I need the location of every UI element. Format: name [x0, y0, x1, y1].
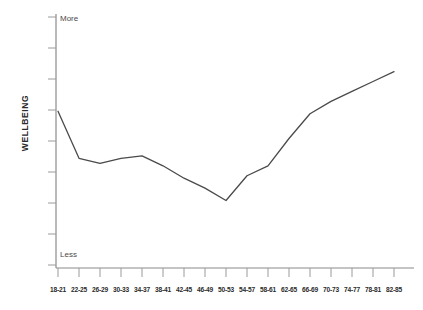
y-axis-ticks [48, 17, 56, 265]
x-axis-ticks [58, 268, 394, 277]
x-tick-label: 38-41 [155, 286, 171, 293]
wellbeing-line-series [58, 72, 394, 201]
x-tick-label: 54-57 [239, 286, 255, 293]
x-tick-label: 26-29 [92, 286, 108, 293]
x-tick-label: 18-21 [50, 286, 66, 293]
x-tick-label: 58-61 [260, 286, 276, 293]
y-axis-group [48, 14, 56, 268]
x-tick-label: 46-49 [197, 286, 213, 293]
x-tick-label: 42-45 [176, 286, 192, 293]
wellbeing-by-age-chart: WELLBEING More Less 18-2122-2526-2930-33… [0, 0, 423, 310]
y-axis-low-label: Less [60, 250, 77, 259]
x-tick-label: 82-85 [386, 286, 402, 293]
x-axis-tick-labels: 18-2122-2526-2930-3334-3738-4142-4546-49… [0, 286, 423, 302]
chart-plot-area [0, 0, 423, 310]
x-tick-label: 78-81 [365, 286, 381, 293]
x-tick-label: 50-53 [218, 286, 234, 293]
x-tick-label: 74-77 [344, 286, 360, 293]
x-tick-label: 62-65 [281, 286, 297, 293]
y-axis-title: WELLBEING [20, 88, 30, 158]
y-axis-high-label: More [60, 14, 78, 23]
x-tick-label: 22-25 [71, 286, 87, 293]
x-tick-label: 70-73 [323, 286, 339, 293]
x-tick-label: 66-69 [302, 286, 318, 293]
x-tick-label: 30-33 [113, 286, 129, 293]
x-tick-label: 34-37 [134, 286, 150, 293]
x-axis-group [56, 268, 414, 277]
